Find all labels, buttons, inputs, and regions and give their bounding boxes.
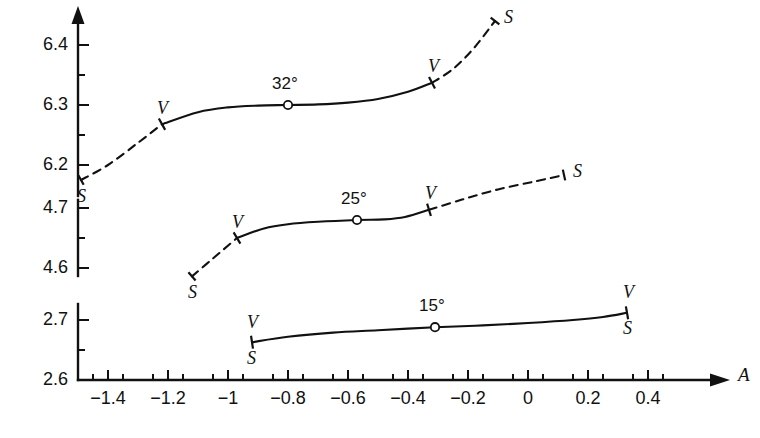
y-tick-label-4-7: 4.7	[8, 197, 68, 218]
curve-dashed-right-32	[432, 21, 495, 83]
x-tick-label-9: 0.4	[618, 388, 678, 409]
y-tick-label-6-3: 6.3	[8, 94, 68, 115]
curve-dashed-right-25	[429, 175, 564, 210]
curve-solid-25	[237, 210, 429, 238]
s-label-right-32: S	[504, 7, 513, 28]
x-tick-label-6: −0.2	[438, 388, 498, 409]
y-tick-label-2-6: 2.6	[8, 369, 68, 390]
x-tick-label-2: −1	[198, 388, 258, 409]
y-tick-label-2-7: 2.7	[8, 309, 68, 330]
s-label-left-25: S	[188, 282, 197, 303]
s-label-right-15: S	[623, 318, 632, 339]
data-point-marker-25	[353, 216, 361, 224]
y-tick-label-6-4: 6.4	[8, 34, 68, 55]
v-label-left-25: V	[232, 212, 243, 233]
curve-degree-label-25: 25°	[341, 189, 367, 209]
x-tick-label-8: 0.2	[558, 388, 618, 409]
x-tick-label-3: −0.8	[258, 388, 318, 409]
curve-dashed-left-25	[192, 238, 237, 276]
chart-canvas	[0, 0, 760, 438]
x-tick-label-1: −1.2	[138, 388, 198, 409]
data-point-marker-32	[284, 101, 292, 109]
curve-dashed-left-32	[81, 124, 162, 180]
s-label-left-15: S	[247, 348, 256, 369]
s-label-right-25: S	[573, 161, 582, 182]
y-tick-label-6-2: 6.2	[8, 154, 68, 175]
x-tick-label-4: −0.6	[318, 388, 378, 409]
data-point-marker-15	[431, 323, 439, 331]
v-label-right-25: V	[425, 183, 436, 204]
curve-degree-label-15: 15°	[419, 296, 445, 316]
chart-figure: 6.4 6.3 6.2 4.7 4.6 2.7 2.6 A −1.4−1.2−1…	[0, 0, 760, 438]
curves-group	[81, 21, 627, 342]
v-label-right-15: V	[623, 282, 634, 303]
y-tick-label-4-6: 4.6	[8, 257, 68, 278]
v-label-right-32: V	[428, 56, 439, 77]
v-label-left-15: V	[247, 312, 258, 333]
x-tick-label-7: 0	[498, 388, 558, 409]
x-tick-label-0: −1.4	[78, 388, 138, 409]
s-label-left-32: S	[77, 186, 86, 207]
x-tick-label-5: −0.4	[378, 388, 438, 409]
curve-markers-group	[78, 18, 628, 349]
v-label-left-32: V	[157, 98, 168, 119]
curve-degree-label-32: 32°	[272, 74, 298, 94]
x-axis-name: A	[738, 364, 750, 386]
